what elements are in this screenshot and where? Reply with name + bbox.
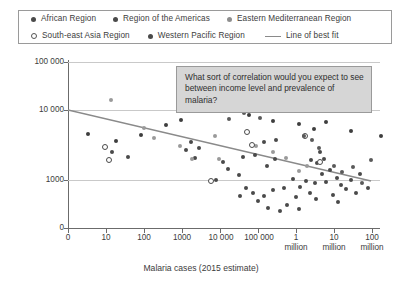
scatter-point [349,178,354,183]
scatter-point [312,127,317,132]
scatter-point [297,169,302,174]
scatter-point [332,164,337,169]
scatter-point [298,185,303,190]
legend-label: Eastern Mediterranean Region [237,15,351,23]
scatter-point [262,140,267,145]
chart-figure: African Region Region of the Americas Ea… [0,0,402,284]
scatter-point [106,157,112,163]
scatter-point [262,194,267,199]
scatter-point [273,157,278,162]
line-of-best-fit-marker-icon [265,36,281,37]
scatter-point [226,167,231,172]
legend-label: South-east Asia Region [42,32,130,40]
scatter-point [285,203,290,208]
legend-label: Line of best fit [286,32,339,40]
legend-label: African Region [41,15,96,23]
scatter-point [379,134,384,139]
scatter-point [360,181,365,186]
annotation-callout: What sort of correlation would you expec… [176,66,372,113]
scatter-point [241,155,246,160]
x-axis-title: Malaria cases (2015 estimate) [143,263,258,273]
x-tick-label: 10 000 [208,233,233,242]
scatter-point [340,170,345,175]
y-tick-label: 100 000 [34,57,64,66]
legend-item-african-region[interactable]: African Region [31,15,96,23]
scatter-point [238,194,243,199]
scatter-point [208,178,214,184]
legend-row-2: South-east Asia Region Western Pacific R… [19,28,391,45]
region-of-the-americas-marker-icon [113,17,118,22]
scatter-point [324,120,329,125]
scatter-point [366,186,371,191]
scatter-point [249,142,255,148]
y-tick-label: 0 [59,223,64,232]
scatter-point [308,191,313,196]
scatter-point [86,132,91,137]
scatter-point [190,157,195,162]
scatter-point [221,160,226,165]
scatter-point [139,133,144,138]
scatter-point [110,150,115,155]
scatter-point [309,158,314,163]
x-tick-label-unit: million [322,243,345,252]
legend-row-1: African Region Region of the Americas Ea… [19,11,391,28]
x-tick-label: 100 000 [244,233,274,242]
scatter-point [126,155,131,160]
scatter-point [266,206,271,211]
scatter-point [324,180,329,185]
legend-label: Western Pacific Region [158,32,245,40]
legend-label: Region of the Americas [123,15,210,23]
scatter-point [339,183,344,188]
gridline-100000 [68,62,380,63]
legend-item-region-of-the-americas[interactable]: Region of the Americas [113,15,210,23]
scatter-point [305,164,310,169]
scatter-point [297,122,302,127]
y-tick-label: 10 000 [39,105,64,114]
x-tick-label-unit: million [360,243,383,252]
scatter-point [282,186,287,191]
scatter-point [351,165,356,170]
scatter-point [274,138,279,143]
scatter-point [189,140,194,145]
scatter-point [271,188,276,193]
scatter-point [102,144,108,150]
scatter-point [271,119,276,124]
scatter-point [317,159,323,165]
scatter-point [244,186,249,191]
x-tick-label-unit: million [284,243,307,252]
gridline-1000 [68,180,380,181]
legend-item-western-pacific-region[interactable]: Western Pacific Region [148,32,245,40]
scatter-point [358,172,363,177]
african-region-marker-icon [31,17,36,22]
scatter-point [336,200,341,205]
legend-item-line-of-best-fit[interactable]: Line of best fit [265,32,339,40]
scatter-point [265,164,270,169]
legend-item-eastern-mediterranean-region[interactable]: Eastern Mediterranean Region [227,15,351,23]
scatter-point [318,150,323,155]
legend-item-south-east-asia-region[interactable]: South-east Asia Region [31,32,130,40]
scatter-point [184,148,189,153]
scatter-point [253,153,258,158]
scatter-point [354,191,359,196]
scatter-point [271,150,276,155]
x-tick-label: 0 [66,233,71,242]
scatter-point [251,191,256,196]
scatter-point [213,134,218,139]
scatter-point [256,199,261,204]
chart-legend: African Region Region of the Americas Ea… [18,10,392,44]
scatter-point [227,117,232,122]
scatter-point [369,158,374,163]
scatter-point [244,129,250,135]
scatter-point [320,172,325,177]
eastern-mediterranean-region-marker-icon [227,17,232,22]
scatter-point [237,173,242,178]
scatter-point [331,193,336,198]
x-tick-label: 100 [137,233,151,242]
scatter-point [164,123,169,128]
scatter-point [328,168,333,173]
scatter-point [179,118,184,123]
scatter-point [314,197,319,202]
scatter-point [284,156,289,161]
western-pacific-region-marker-icon [148,34,153,39]
y-tick-label: 1000 [46,175,64,184]
